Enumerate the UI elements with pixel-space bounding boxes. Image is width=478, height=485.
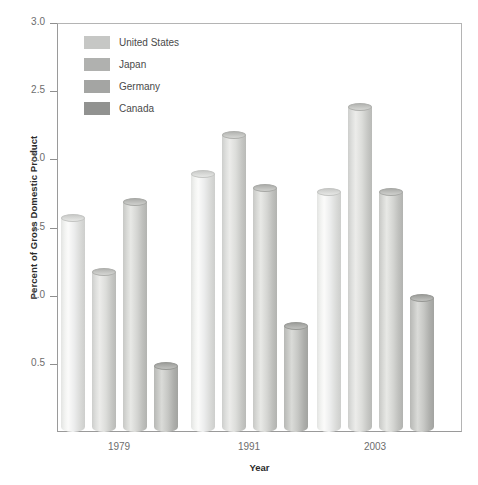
legend-swatch-united-states bbox=[84, 36, 110, 49]
y-tick: 2.0 bbox=[0, 159, 57, 160]
legend-item-united-states: United States bbox=[84, 32, 179, 53]
y-tick: 3.0 bbox=[0, 23, 57, 24]
bar-cap-ellipse bbox=[123, 198, 147, 206]
y-tick-mark bbox=[50, 91, 57, 92]
bar-japan-2003 bbox=[348, 103, 372, 432]
y-tick: 1.0 bbox=[0, 296, 57, 297]
x-tick-label: 1979 bbox=[108, 441, 130, 452]
bar-body bbox=[123, 202, 147, 432]
legend-swatch-canada bbox=[84, 102, 110, 115]
legend-label: Canada bbox=[119, 103, 154, 114]
bar-united-states-2003 bbox=[317, 188, 341, 432]
bar-body bbox=[154, 366, 178, 432]
bar-canada-2003 bbox=[410, 294, 434, 432]
bar-canada-1979 bbox=[154, 362, 178, 432]
bar-united-states-1991 bbox=[191, 170, 215, 432]
bar-body bbox=[379, 192, 403, 432]
legend-swatch-japan bbox=[84, 58, 110, 71]
y-tick-mark bbox=[50, 228, 57, 229]
y-tick: 1.5 bbox=[0, 228, 57, 229]
bar-cap-ellipse bbox=[379, 188, 403, 196]
y-tick-mark bbox=[50, 159, 57, 160]
legend: United StatesJapanGermanyCanada bbox=[84, 32, 179, 120]
legend-label: Germany bbox=[119, 81, 160, 92]
bar-united-states-1979 bbox=[61, 214, 85, 432]
y-tick-label: 2.0 bbox=[31, 152, 45, 163]
bar-japan-1991 bbox=[222, 131, 246, 432]
x-tick-label: 1991 bbox=[238, 441, 260, 452]
bar-body bbox=[253, 188, 277, 432]
legend-label: Japan bbox=[119, 59, 146, 70]
bar-cap-ellipse bbox=[317, 188, 341, 196]
bar-germany-2003 bbox=[379, 188, 403, 432]
bar-body bbox=[61, 218, 85, 432]
bar-cap-ellipse bbox=[222, 131, 246, 139]
bar-body bbox=[92, 272, 116, 432]
bar-body bbox=[410, 298, 434, 432]
y-tick: 0.5 bbox=[0, 364, 57, 365]
x-axis-title: Year bbox=[57, 462, 462, 473]
x-tick-label: 2003 bbox=[364, 441, 386, 452]
bar-cap-ellipse bbox=[284, 322, 308, 330]
y-tick-label: 1.0 bbox=[31, 289, 45, 300]
y-tick-mark bbox=[50, 296, 57, 297]
bar-germany-1991 bbox=[253, 184, 277, 432]
y-tick-label: 3.0 bbox=[31, 16, 45, 27]
y-tick-label: 2.5 bbox=[31, 84, 45, 95]
bar-body bbox=[317, 192, 341, 432]
legend-item-japan: Japan bbox=[84, 54, 179, 75]
bar-body bbox=[191, 174, 215, 432]
y-tick-label: 1.5 bbox=[31, 221, 45, 232]
legend-label: United States bbox=[119, 37, 179, 48]
bar-body bbox=[222, 135, 246, 432]
bar-body bbox=[284, 326, 308, 432]
bar-cap-ellipse bbox=[253, 184, 277, 192]
bar-body bbox=[348, 107, 372, 432]
y-tick-mark bbox=[50, 23, 57, 24]
bar-cap-ellipse bbox=[61, 214, 85, 222]
legend-swatch-germany bbox=[84, 80, 110, 93]
legend-item-germany: Germany bbox=[84, 76, 179, 97]
y-tick-label: 0.5 bbox=[31, 357, 45, 368]
y-tick: 2.5 bbox=[0, 91, 57, 92]
bar-canada-1991 bbox=[284, 322, 308, 432]
bar-chart: Percent of Gross Domestic Product 0.51.0… bbox=[0, 0, 478, 485]
bar-japan-1979 bbox=[92, 268, 116, 432]
bar-germany-1979 bbox=[123, 198, 147, 432]
legend-item-canada: Canada bbox=[84, 98, 179, 119]
y-tick-mark bbox=[50, 364, 57, 365]
